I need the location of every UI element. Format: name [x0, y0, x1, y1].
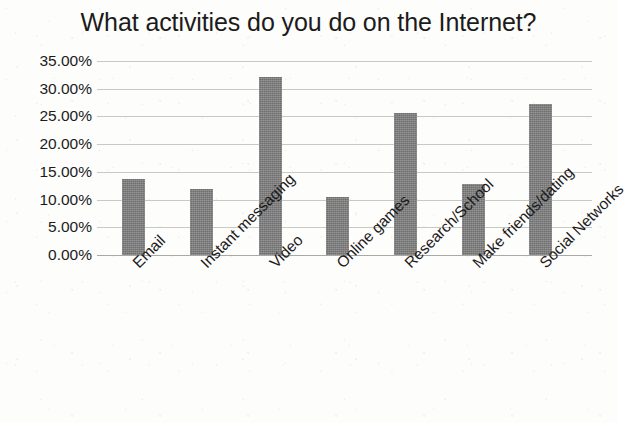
y-axis-tick-label: 10.00% [0, 191, 92, 209]
gridline-25.00% [97, 116, 592, 117]
bar-email[interactable] [122, 179, 145, 255]
gridline-15.00% [97, 172, 592, 173]
gridline-30.00% [97, 89, 592, 90]
gridline-35.00% [97, 61, 592, 62]
y-axis-tick-label: 0.00% [0, 246, 92, 264]
gridline-20.00% [97, 144, 592, 145]
bar-video[interactable] [259, 77, 282, 255]
y-axis-tick-label: 30.00% [0, 80, 92, 98]
bar-research-school[interactable] [394, 113, 417, 255]
y-axis-tick-label: 5.00% [0, 218, 92, 236]
y-axis-tick-label: 35.00% [0, 52, 92, 70]
y-axis-tick-label: 15.00% [0, 163, 92, 181]
y-axis: 35.00%30.00%25.00%20.00%15.00%10.00%5.00… [0, 0, 92, 423]
y-axis-tick-label: 20.00% [0, 135, 92, 153]
y-axis-tick-label: 25.00% [0, 107, 92, 125]
chart-title: What activities do you do on the Interne… [0, 8, 617, 37]
